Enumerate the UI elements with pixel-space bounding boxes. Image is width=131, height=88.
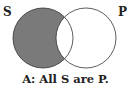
label-s: S xyxy=(3,6,12,18)
caption: A: All S are P. xyxy=(0,72,131,86)
label-p: P xyxy=(118,6,127,18)
